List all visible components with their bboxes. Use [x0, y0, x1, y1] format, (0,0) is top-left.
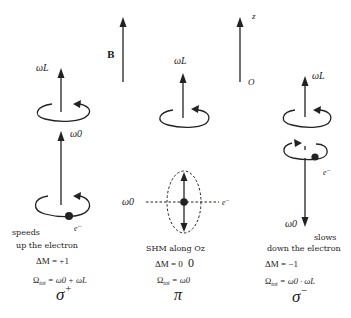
polarization-pi: π: [174, 286, 183, 303]
precession-loop-icon: [160, 110, 209, 127]
electron-dot: [65, 212, 73, 220]
orbital-label: ω0: [70, 128, 82, 139]
precession-direction-arrowhead: [191, 105, 199, 113]
delta-m-label: ΔM = 00: [155, 256, 194, 270]
precession-arrow: [58, 68, 65, 112]
polarization-sigma-minus: σ−: [292, 284, 308, 306]
orbital-label: ω0: [122, 196, 134, 207]
electron-label: e⁻: [74, 224, 82, 233]
delta-m-label: ΔM = +1: [36, 256, 69, 266]
description-line-2: down the electron: [267, 244, 341, 253]
electron-dot: [311, 153, 318, 160]
omega-total-label: Ωtot = ω0: [157, 275, 191, 286]
precession-label: ωL: [36, 62, 49, 73]
precession-loop-icon: [37, 104, 89, 121]
panel-pi: ωL ω0 e⁻ SHM along Oz ΔM = 00 Ωtot = ω0 …: [122, 55, 230, 303]
orbit-direction-arrowhead: [73, 192, 81, 200]
z-axis-arrow: [237, 17, 244, 82]
field-label: B: [107, 50, 115, 60]
orbit-direction-arrowhead: [294, 139, 302, 147]
panel-sigma-plus: ωL ω0 e⁻ speeds up the electron ΔM = +1 …: [12, 62, 90, 304]
electron-label: e⁻: [222, 198, 230, 207]
z-axis-label: z: [251, 11, 256, 21]
precession-arrow: [302, 76, 309, 117]
description-line-1: SHM along Oz: [146, 244, 205, 253]
orbit-loop-icon: [36, 196, 90, 217]
polarization-sigma-plus: σ+: [56, 282, 72, 304]
orbital-arrow: [58, 131, 65, 205]
precession-label: ωL: [312, 70, 325, 81]
precession-loop-icon: [283, 110, 331, 127]
precession-arrow: [180, 73, 187, 118]
precession-label: ωL: [174, 55, 187, 66]
description-line-2: up the electron: [16, 241, 78, 250]
panel-sigma-minus: ωL e⁻ ω0 slows down the electron ΔM = −1…: [265, 70, 341, 306]
electron-dot: [180, 198, 188, 206]
magnetic-field-arrow: [120, 17, 127, 82]
origin-label: O: [248, 77, 255, 87]
description-line-1: speeds: [12, 228, 40, 237]
precession-direction-arrowhead: [73, 100, 81, 108]
delta-m-label: ΔM = −1: [265, 259, 298, 269]
orbital-arrow: [302, 158, 309, 227]
zeeman-effect-diagram: B z O ωL ω0 e⁻ speeds up the electron ΔM: [0, 0, 351, 318]
electron-label: e⁻: [323, 168, 331, 177]
orbital-label: ω0: [285, 218, 297, 229]
orbit-loop-icon: [284, 143, 327, 160]
description-line-1: slows: [314, 233, 336, 242]
precession-direction-arrowhead: [313, 106, 321, 114]
